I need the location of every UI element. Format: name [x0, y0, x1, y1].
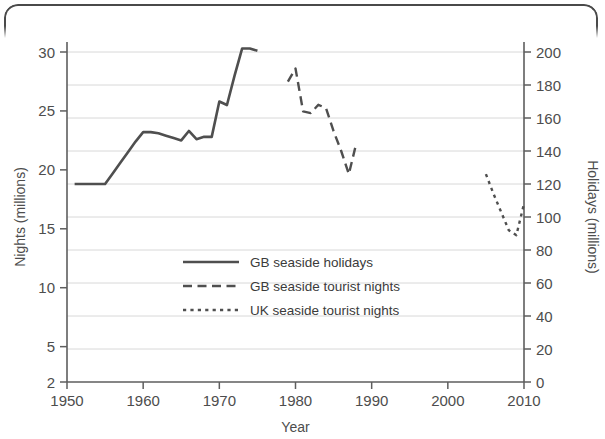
- x-axis-tick-label: 1990: [355, 392, 388, 409]
- y-axis-tick-label: 15: [38, 220, 55, 237]
- seaside-holidays-line-chart: 2510152025300204060801001201401601802001…: [0, 0, 605, 439]
- y-axis-tick-label: 20: [38, 161, 55, 178]
- y-axis-tick-label: 5: [47, 338, 55, 355]
- x-axis-tick-label: 2010: [507, 392, 540, 409]
- series-line-1: [288, 69, 357, 175]
- data-series-group: [75, 48, 524, 235]
- y2-axis-title: Holidays (millions): [585, 160, 601, 274]
- x-axis-tick-label: 2000: [431, 392, 464, 409]
- y2-axis-tick-label: 120: [536, 176, 561, 193]
- chart-legend: GB seaside holidaysGB seaside tourist ni…: [183, 255, 400, 318]
- legend-label: GB seaside holidays: [250, 255, 373, 270]
- axes-group: [67, 42, 524, 382]
- series-line-2: [486, 174, 524, 235]
- y2-axis-tick-label: 160: [536, 110, 561, 127]
- y2-axis-tick-label: 20: [536, 341, 553, 358]
- y2-axis-tick-label: 40: [536, 308, 553, 325]
- legend-label: UK seaside tourist nights: [250, 303, 400, 318]
- y2-axis-tick-label: 100: [536, 209, 561, 226]
- y2-axis-tick-label: 60: [536, 275, 553, 292]
- legend-item-1: GB seaside tourist nights: [183, 279, 400, 294]
- x-axis-tick-label: 1950: [50, 392, 83, 409]
- y2-axis-tick-label: 0: [536, 374, 544, 391]
- y-axis-title: Nights (millions): [12, 167, 28, 267]
- legend-label: GB seaside tourist nights: [250, 279, 400, 294]
- legend-item-0: GB seaside holidays: [183, 255, 373, 270]
- y2-axis-tick-label: 140: [536, 143, 561, 160]
- x-axis-title: Year: [281, 419, 310, 435]
- y-axis-tick-label: 25: [38, 102, 55, 119]
- x-axis-tick-label: 1970: [203, 392, 236, 409]
- y-axis-tick-label: 10: [38, 279, 55, 296]
- y2-axis-tick-label: 80: [536, 242, 553, 259]
- y2-axis-tick-label: 200: [536, 44, 561, 61]
- tick-marks-group: [60, 52, 531, 389]
- y-axis-tick-label: 2: [47, 374, 55, 391]
- series-line-0: [75, 48, 258, 184]
- x-axis-tick-label: 1980: [279, 392, 312, 409]
- y-axis-tick-label: 30: [38, 44, 55, 61]
- chart-figure: 2510152025300204060801001201401601802001…: [0, 0, 605, 439]
- x-axis-tick-label: 1960: [126, 392, 159, 409]
- y2-axis-tick-label: 180: [536, 77, 561, 94]
